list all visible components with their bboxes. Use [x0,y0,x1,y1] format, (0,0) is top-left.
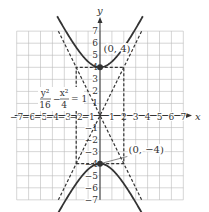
x-tick-label: 5 [157,112,163,122]
x-tick-label: 7 [180,112,186,122]
vertex-point [97,161,103,167]
y-axis-arrow-icon [98,17,103,23]
eq-rhs: = 1 [71,94,87,104]
y-tick-label: 1 [92,98,98,108]
y-axis-label: y [96,5,103,16]
y-tick-label: −5 [85,171,99,181]
x-axis-arrow-icon [186,113,192,118]
eq-num2: x² [60,88,69,98]
eq-den1: 16 [39,100,51,110]
y-tick-label: −6 [85,183,99,193]
x-tick-label: 4 [145,112,151,122]
y-tick-label: 2 [92,86,98,96]
vertex-label-top: (0, 4) [104,43,131,54]
y-tick-label: 5 [92,50,98,60]
y-tick-label: −3 [85,147,99,157]
x-tick-label: 3 [133,112,139,122]
eq-num1: y² [40,88,50,98]
x-tick-label: 6 [169,112,175,122]
eq-den2: 4 [61,100,67,110]
x-tick-label: −1 [81,112,94,122]
vertex-point [97,64,103,70]
y-tick-label: −1 [85,123,98,133]
y-tick-label: −7 [85,195,99,205]
y-tick-label: −2 [85,135,98,145]
hyperbola-chart: xy−7−6−5−4−3−2−11234567−7−6−5−4−3−2−1123… [0,0,209,212]
x-axis-label: x [195,111,201,122]
x-tick-label: 1 [109,112,115,122]
y-tick-label: 7 [92,26,98,36]
vertex-label-bottom: (0, −4) [129,144,164,155]
y-tick-label: 6 [92,38,98,48]
y-tick-label: 3 [92,74,98,84]
equation-label: y²16−x²4= 1 [38,87,87,111]
